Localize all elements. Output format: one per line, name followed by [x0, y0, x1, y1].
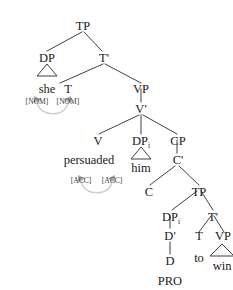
node-dp-pro: DPi	[162, 210, 180, 226]
node-d-bar: D'	[164, 229, 175, 243]
syntax-tree-canvas: TP DP T' she T VP V' V DPi CP persuaded …	[0, 0, 233, 290]
branch-vbar-cp	[143, 115, 177, 134]
terminal-persuaded: persuaded	[64, 153, 115, 167]
terminal-him: him	[131, 161, 151, 175]
syntax-tree-figure: TP DP T' she T VP V' V DPi CP persuaded …	[0, 0, 233, 290]
feature-labels: [NOM] [NOM] [ACC] [ACC]	[26, 97, 123, 185]
feature-acc-probe: [ACC]	[71, 176, 92, 185]
branch-tbar-t	[60, 64, 103, 83]
node-c: C	[145, 185, 153, 199]
node-v: V	[93, 134, 102, 148]
triangle-dp-she	[37, 64, 57, 76]
node-d: D	[165, 254, 174, 268]
branch-tp-tbar	[84, 32, 102, 51]
terminal-to: to	[194, 251, 204, 265]
feature-nom-goal: [NOM]	[57, 97, 80, 106]
node-t-2: T	[195, 229, 203, 243]
node-vp-2: VP	[215, 229, 231, 243]
node-c-bar: C'	[173, 153, 184, 167]
branch-vbar-v	[99, 115, 139, 134]
node-t-bar-2: T'	[208, 210, 218, 224]
branch-cbar-c	[150, 166, 175, 185]
node-cp: CP	[170, 134, 185, 148]
node-v-bar: V'	[135, 102, 146, 116]
terminal-she: she	[39, 82, 56, 96]
node-dp-object: DPi	[132, 134, 150, 150]
node-tp-root: TP	[76, 19, 91, 33]
node-t-1: T	[64, 82, 72, 96]
terminal-win: win	[213, 259, 233, 273]
node-dp-subject: DP	[39, 51, 55, 65]
branch-tp-dp	[47, 32, 82, 51]
node-tp-embedded: TP	[192, 185, 207, 199]
terminal-pro: PRO	[158, 274, 182, 288]
node-vp-1: VP	[133, 82, 149, 96]
feature-acc-goal: [ACC]	[102, 176, 123, 185]
triangle-vp-win	[210, 244, 233, 256]
branch-cbar-tp	[179, 166, 199, 185]
feature-nom-probe: [NOM]	[26, 97, 49, 106]
node-t-bar-1: T'	[99, 51, 109, 65]
branch-tbar-vp	[105, 64, 141, 83]
